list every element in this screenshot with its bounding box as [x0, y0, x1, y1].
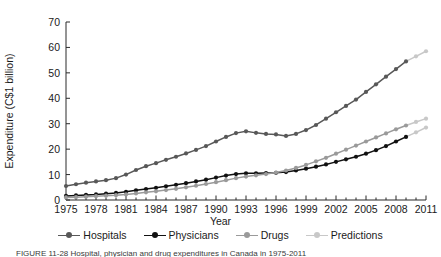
point-hospitals-1995	[264, 132, 268, 136]
point-physicians-2003	[344, 157, 348, 161]
point-drugs-1999	[304, 163, 308, 167]
figure-caption: FIGURE 11-28 Hospital, physician and dru…	[16, 249, 436, 257]
point-drugs-1977	[84, 195, 88, 199]
y-axis-tick-labels: 010203040506070	[34, 22, 60, 200]
point-drugs-1997	[284, 168, 288, 172]
x-tick-2002: 2002	[319, 203, 353, 215]
point-hospitals-1996	[274, 132, 278, 136]
x-tick-1981: 1981	[109, 203, 143, 215]
point-hospitals-1978	[94, 179, 98, 183]
point-physicians-2001	[324, 162, 328, 166]
point-hospitals-1984	[154, 161, 158, 165]
point-physicians-1988	[194, 179, 198, 183]
point-drugs-1991	[224, 178, 228, 182]
point-hospitals-1989	[204, 144, 208, 148]
legend-item-drugs[interactable]: Drugs	[236, 230, 289, 241]
x-tick-1999: 1999	[289, 203, 323, 215]
y-tick-20: 20	[36, 144, 60, 154]
point-physicians-1987	[184, 181, 188, 185]
y-axis-title-label: Expenditure (C$1 billion)	[3, 54, 15, 169]
point-drugs-2004	[354, 143, 358, 147]
point-drugs-2003	[344, 148, 348, 152]
point-hospitals-2009	[404, 59, 408, 63]
point-physicians-1986	[174, 183, 178, 187]
point-drugs-2008	[394, 127, 398, 131]
legend-item-predictions[interactable]: Predictions	[306, 230, 383, 241]
x-tick-1984: 1984	[139, 203, 173, 215]
point-drugs-1982	[134, 191, 138, 195]
point-drugs-2001	[324, 156, 328, 160]
point-hospitals-1980	[114, 176, 118, 180]
point-hospitals-2006	[374, 82, 378, 86]
point-drugs-1978	[94, 194, 98, 198]
point-hospitals-1977	[84, 181, 88, 185]
legend-item-hospitals[interactable]: Hospitals	[58, 230, 126, 241]
y-tick-40: 40	[36, 93, 60, 103]
point-hospitals-2001	[324, 117, 328, 121]
point-hospitals-1999	[304, 128, 308, 132]
x-tick-1996: 1996	[259, 203, 293, 215]
point-hospitals-1991	[224, 135, 228, 139]
point-hospitals-2004	[354, 97, 358, 101]
line-drugs	[66, 125, 406, 197]
y-axis-title: Expenditure (C$1 billion)	[0, 22, 18, 200]
point-drugs-1983	[144, 190, 148, 194]
x-tick-2011: 2011	[409, 203, 441, 215]
point-drugs-1996	[274, 170, 278, 174]
legend-label-hospitals: Hospitals	[83, 230, 126, 241]
point-drugs-2000	[314, 159, 318, 163]
legend-item-physicians[interactable]: Physicians	[144, 230, 219, 241]
x-tick-2008: 2008	[379, 203, 413, 215]
y-tick-60: 60	[36, 42, 60, 52]
x-tick-1987: 1987	[169, 203, 203, 215]
point-physicians-2008	[394, 139, 398, 143]
point-drugs-2002	[334, 152, 338, 156]
point-drugs-1976	[74, 195, 78, 199]
legend-swatch-hospitals-icon	[58, 231, 80, 240]
legend-label-drugs: Drugs	[261, 230, 289, 241]
point-hospitals-2007	[384, 75, 388, 79]
point-hospitals-1998	[294, 132, 298, 136]
legend-label-predictions: Predictions	[331, 230, 383, 241]
legend-swatch-predictions-icon	[306, 231, 328, 240]
point-drugs-2011	[424, 117, 428, 121]
point-physicians-1990	[214, 176, 218, 180]
plot-area	[66, 22, 426, 200]
point-hospitals-2000	[314, 123, 318, 127]
point-physicians-2007	[384, 144, 388, 148]
point-hospitals-2008	[394, 67, 398, 71]
line-chart-svg	[66, 22, 426, 200]
point-drugs-1998	[294, 166, 298, 170]
series-layer	[64, 49, 428, 199]
point-physicians-2011	[424, 125, 428, 129]
point-hospitals-1997	[284, 134, 288, 138]
point-physicians-1985	[164, 184, 168, 188]
point-hospitals-1979	[104, 178, 108, 182]
point-hospitals-1982	[134, 168, 138, 172]
point-physicians-1999	[304, 167, 308, 171]
point-drugs-2005	[364, 139, 368, 143]
point-drugs-2009	[404, 123, 408, 127]
legend-label-physicians: Physicians	[169, 230, 219, 241]
point-hospitals-1990	[214, 139, 218, 143]
point-drugs-1989	[204, 182, 208, 186]
x-tick-1975: 1975	[49, 203, 83, 215]
point-drugs-1994	[254, 173, 258, 177]
x-tick-1990: 1990	[199, 203, 233, 215]
point-hospitals-1988	[194, 148, 198, 152]
point-drugs-1992	[234, 176, 238, 180]
point-hospitals-2011	[424, 49, 428, 53]
point-drugs-1995	[264, 172, 268, 176]
point-drugs-2010	[414, 120, 418, 124]
y-tick-70: 70	[36, 17, 60, 27]
point-drugs-1990	[214, 180, 218, 184]
point-drugs-1985	[164, 188, 168, 192]
point-physicians-1992	[234, 172, 238, 176]
point-physicians-2000	[314, 165, 318, 169]
point-physicians-2002	[334, 160, 338, 164]
y-tick-10: 10	[36, 170, 60, 180]
point-hospitals-1993	[244, 129, 248, 133]
point-physicians-1991	[224, 173, 228, 177]
line-hospitals	[66, 61, 406, 186]
point-hospitals-1992	[234, 131, 238, 135]
